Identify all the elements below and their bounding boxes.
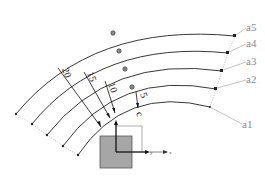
y-axis-label: y <box>150 150 153 155</box>
arc-label-a1: a1 <box>242 118 252 130</box>
arc-offset-diagram: y x 20 15 10 5 c a5 a4 a3 <box>0 0 265 179</box>
dim-label-15: 15 <box>85 70 99 83</box>
x-axis-label: x <box>169 150 172 155</box>
waypoint-markers <box>111 31 134 89</box>
dim-label-20: 20 <box>60 66 74 79</box>
arc-label-a5: a5 <box>246 21 257 33</box>
arc-label-a2: a2 <box>246 73 256 85</box>
arc-a3 <box>47 68 222 135</box>
dim-label-5: 5 <box>138 91 150 99</box>
arc-label-a3: a3 <box>246 55 257 67</box>
leader-lines <box>210 28 246 124</box>
origin-marker-label: c <box>134 110 146 118</box>
arc-a5 <box>16 34 235 114</box>
y-axis-arrow-icon <box>114 120 118 125</box>
x-extension-arrow-icon <box>163 150 168 154</box>
arc-label-a4: a4 <box>246 37 257 49</box>
